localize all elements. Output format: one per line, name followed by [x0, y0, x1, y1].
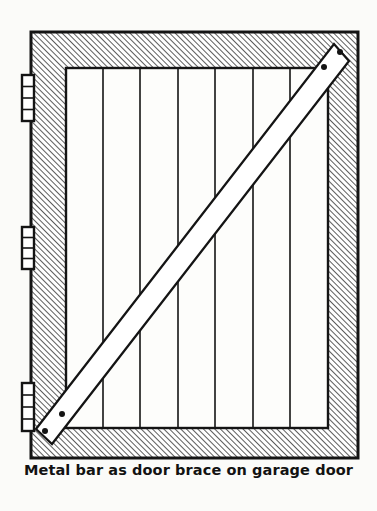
hinge-top [22, 75, 34, 121]
brace-bolt-hole [321, 64, 327, 70]
brace-bolt-hole [59, 411, 65, 417]
garage-door-brace-figure: Metal bar as door brace on garage door [0, 0, 377, 511]
brace-bolt-hole [337, 49, 343, 55]
brace-bolt-hole [42, 428, 48, 434]
figure-caption: Metal bar as door brace on garage door [0, 462, 377, 478]
hinge-middle [22, 227, 34, 269]
garage-door-diagram [0, 0, 377, 511]
hinge-bottom [22, 383, 34, 431]
